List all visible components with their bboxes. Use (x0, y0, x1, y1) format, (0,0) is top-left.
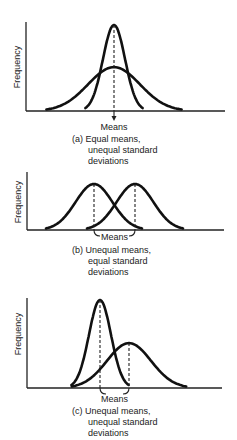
caption-line-1: (b) Unequal means, (72, 245, 151, 255)
caption-line-3: deviations (88, 267, 129, 277)
caption-line-2: unequal standard (88, 145, 158, 155)
arrowhead-icon (112, 116, 117, 121)
y-axis-label: Frequency (13, 312, 23, 355)
panel-b: Frequency Means (b) Unequal means, equal… (13, 172, 224, 277)
caption-line-3: deviations (88, 428, 129, 438)
caption-line-1: (a) Equal means, (72, 134, 141, 144)
caption-line-2: unequal standard (88, 417, 158, 427)
curve-wide (46, 67, 181, 109)
distribution-figure: Frequency Means (a) Equal means, unequal… (0, 0, 237, 440)
means-label: Means (100, 122, 128, 132)
means-bracket-right (129, 230, 135, 236)
means-bracket-left (94, 230, 100, 236)
panel-a: Frequency Means (a) Equal means, unequal… (12, 22, 225, 166)
caption-line-1: (c) Unequal means, (72, 406, 151, 416)
y-axis-label: Frequency (13, 180, 23, 223)
means-label: Means (101, 394, 129, 404)
means-label: Means (101, 232, 129, 242)
caption-line-3: deviations (88, 156, 129, 166)
y-axis-label: Frequency (12, 45, 22, 88)
panel-c: Frequency Means (c) Unequal means, unequ… (13, 298, 222, 438)
caption-line-2: equal standard (88, 256, 148, 266)
